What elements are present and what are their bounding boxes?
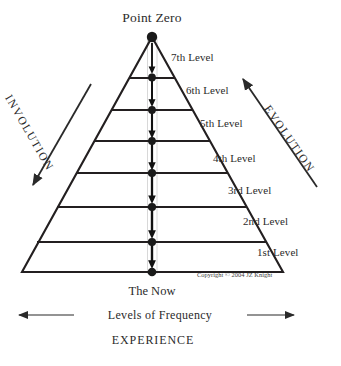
level-label-1st: 1st Level	[257, 247, 299, 258]
level-label-4th: 4th Level	[213, 153, 256, 164]
involution-arrow	[33, 84, 91, 185]
node-level-2	[148, 238, 156, 246]
node-point-zero	[147, 32, 157, 42]
node-level-7	[148, 74, 156, 82]
flow-arrowhead-e	[148, 196, 156, 205]
experience-label: EXPERIENCE	[112, 334, 194, 346]
page-title: Point Zero	[122, 11, 181, 25]
the-now-label: The Now	[129, 285, 176, 298]
node-level-6	[148, 106, 156, 114]
flow-arrowhead-a	[149, 67, 156, 74]
node-level-4	[148, 169, 156, 177]
flow-arrowhead-g	[148, 260, 156, 269]
level-label-7th: 7th Level	[171, 52, 214, 63]
diagram-canvas: Point Zero 7th Level 6th Level 5th Level…	[0, 0, 341, 366]
node-the-now	[148, 268, 157, 277]
level-label-2nd: 2nd Level	[243, 216, 288, 227]
copyright-notice: Copyright © 2004 JZ Knight	[197, 272, 272, 278]
levels-of-frequency-label: Levels of Frequency	[108, 309, 212, 321]
level-label-6th: 6th Level	[186, 85, 229, 96]
flow-arrowhead-f	[148, 230, 156, 239]
level-label-5th: 5th Level	[200, 118, 243, 129]
node-level-3	[148, 203, 156, 211]
level-label-3rd: 3rd Level	[228, 185, 271, 196]
node-level-5	[148, 137, 156, 145]
flow-arrowhead-b	[149, 99, 156, 107]
